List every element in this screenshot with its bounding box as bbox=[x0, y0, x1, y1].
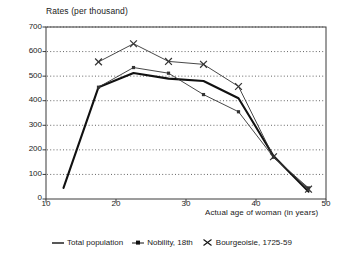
chart-legend: Total population Nobility, 18th Bourgeoi… bbox=[0, 238, 344, 247]
legend-item-nobility[interactable]: Nobility, 18th bbox=[132, 238, 193, 247]
series-0 bbox=[64, 73, 309, 192]
chart-figure: Rates (per thousand) 700 600 500 400 300… bbox=[0, 0, 344, 262]
legend-item-bourgeoisie[interactable]: Bourgeoisie, 1725-59 bbox=[202, 238, 292, 247]
legend-label-nobility: Nobility, 18th bbox=[147, 238, 193, 247]
series-2 bbox=[95, 40, 312, 192]
legend-square-dot-icon bbox=[132, 238, 144, 247]
data-series-group bbox=[64, 40, 312, 192]
legend-line-icon bbox=[52, 238, 64, 247]
legend-label-bourgeoisie: Bourgeoisie, 1725-59 bbox=[216, 238, 292, 247]
plot-frame bbox=[46, 27, 326, 199]
legend-label-total-population: Total population bbox=[67, 238, 123, 247]
plot-canvas bbox=[0, 0, 344, 262]
series-1 bbox=[97, 66, 310, 190]
axis-ticks-group bbox=[43, 27, 327, 203]
gridlines-group bbox=[47, 27, 325, 174]
legend-x-cross-icon bbox=[202, 238, 213, 247]
legend-item-total-population[interactable]: Total population bbox=[52, 238, 123, 247]
